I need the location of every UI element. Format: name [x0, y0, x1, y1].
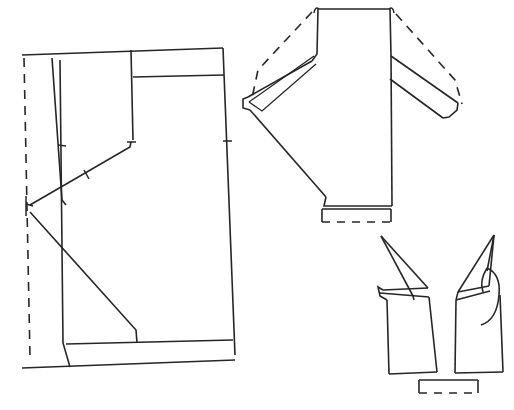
- garment-pattern-drawing: [0, 0, 514, 410]
- bodice-right-armhole-edge: [390, 9, 391, 56]
- trouser-right-leg-inseam: [455, 300, 456, 373]
- bodice-right-side-seam: [391, 56, 392, 206]
- pattern-canvas: [0, 0, 514, 410]
- notch-mark-dart-icon: [58, 145, 66, 146]
- canvas-background: [0, 0, 514, 410]
- trouser-right-leg-hem: [455, 372, 503, 373]
- trouser-left-flap-join: [413, 296, 414, 300]
